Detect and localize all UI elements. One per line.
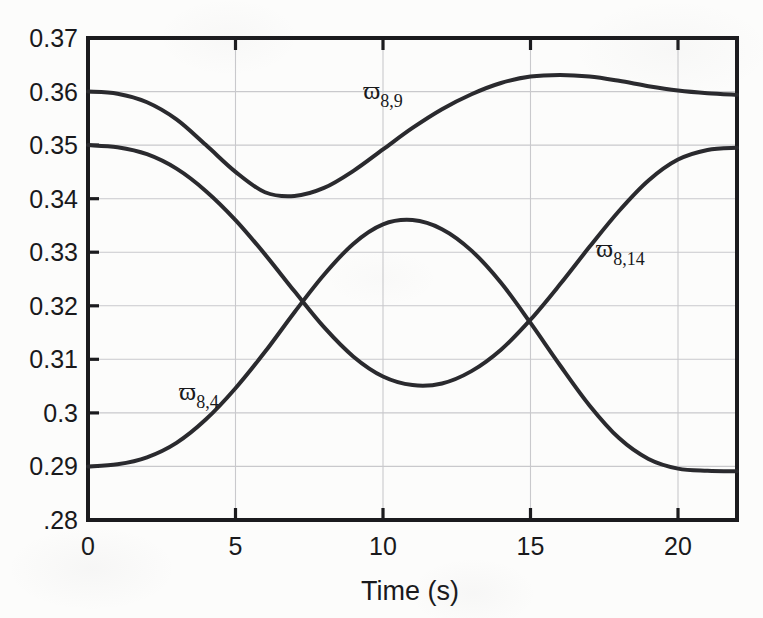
- x-tick-label-15: 15: [517, 532, 545, 560]
- x-tick-label-20: 20: [664, 532, 692, 560]
- line-chart: 0.37 0.36 0.35 0.34 0.33 0.32 0.31 0.3 0…: [0, 0, 763, 618]
- y-tick-label-0.28: .28: [43, 506, 78, 534]
- x-tick-labels: 0 5 10 15 20: [81, 532, 692, 560]
- y-tick-label-0.36: 0.36: [29, 78, 78, 106]
- y-tick-label-0.31: 0.31: [29, 345, 78, 373]
- y-tick-label-0.32: 0.32: [29, 292, 78, 320]
- y-tick-label-0.34: 0.34: [29, 185, 78, 213]
- curve-label-w-8-14-base: ϖ: [596, 234, 613, 263]
- gridlines: [88, 38, 737, 520]
- x-tickmarks: [236, 38, 679, 520]
- curve-label-w-8-4-base: ϖ: [179, 377, 196, 406]
- y-tick-label-0.29: 0.29: [29, 452, 78, 480]
- plot-frame: [88, 38, 737, 520]
- curve-label-w-8-4: ϖ8,4: [179, 377, 219, 412]
- curve-label-w-8-4-sub: 8,4: [196, 392, 219, 412]
- figure-page: 0.37 0.36 0.35 0.34 0.33 0.32 0.31 0.3 0…: [0, 0, 763, 618]
- curve-label-w-8-9-sub: 8,9: [380, 91, 403, 111]
- curve-label-w-8-14-sub: 8,14: [613, 249, 645, 269]
- x-axis-title: Time (s): [361, 576, 459, 606]
- x-tick-label-5: 5: [229, 532, 243, 560]
- y-tick-label-0.37: 0.37: [29, 24, 78, 52]
- y-tick-labels: 0.37 0.36 0.35 0.34 0.33 0.32 0.31 0.3 0…: [29, 24, 78, 534]
- y-tick-label-0.30: 0.3: [43, 399, 78, 427]
- x-tick-label-10: 10: [369, 532, 397, 560]
- curve-label-w-8-9-base: ϖ: [363, 76, 380, 105]
- series-path-w-8-9: [88, 75, 737, 196]
- x-tick-label-0: 0: [81, 532, 95, 560]
- curve-label-w-8-14: ϖ8,14: [596, 234, 645, 269]
- series-group: [88, 75, 737, 471]
- y-tick-label-0.33: 0.33: [29, 238, 78, 266]
- y-tick-label-0.35: 0.35: [29, 131, 78, 159]
